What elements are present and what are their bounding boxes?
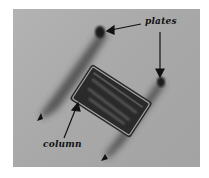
crystal-illustration: [13, 9, 200, 167]
label-plates: plates: [145, 16, 177, 26]
crystal-photo: plates column: [13, 9, 200, 167]
label-column: column: [43, 139, 82, 149]
